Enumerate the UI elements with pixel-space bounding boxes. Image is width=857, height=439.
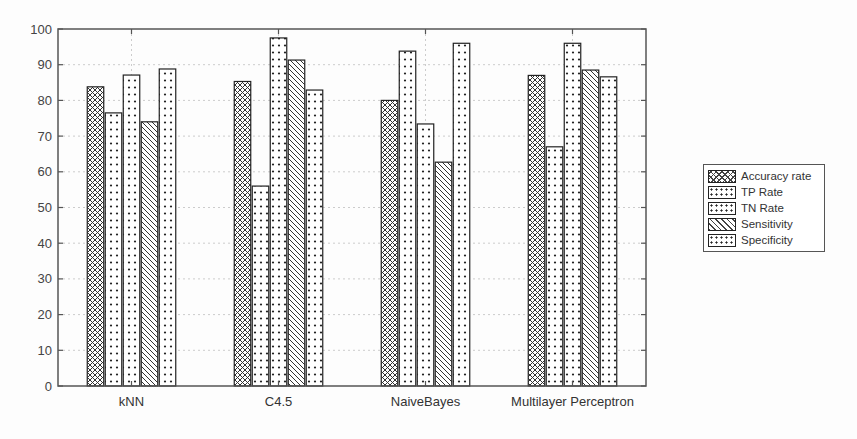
x-category-label: C4.5 xyxy=(265,394,292,409)
bar-tp-rate-multilayer-perceptron xyxy=(546,147,563,386)
dots-swatch-icon xyxy=(708,186,736,199)
y-tick-label: 50 xyxy=(38,200,52,215)
legend-item-accuracy-rate: Accuracy rate xyxy=(708,168,820,184)
bar-sensitivity-multilayer-perceptron xyxy=(582,70,599,386)
dots-swatch-icon xyxy=(708,202,736,215)
y-tick-label: 30 xyxy=(38,271,52,286)
crosshatch-swatch-icon xyxy=(708,170,736,183)
legend-label: TN Rate xyxy=(741,202,784,214)
y-tick-label: 80 xyxy=(38,93,52,108)
y-tick-label: 0 xyxy=(45,379,52,394)
x-category-label: Multilayer Perceptron xyxy=(511,394,634,409)
bar-sensitivity-c4-5 xyxy=(288,60,305,386)
bar-specificity-naivebayes xyxy=(453,43,470,386)
y-tick-label: 90 xyxy=(38,57,52,72)
bar-tn-rate-multilayer-perceptron xyxy=(564,43,581,386)
legend-label: Sensitivity xyxy=(741,218,793,230)
bar-specificity-knn xyxy=(159,69,176,386)
bar-sensitivity-naivebayes xyxy=(435,162,452,386)
legend-item-tn-rate: TN Rate xyxy=(708,200,820,216)
bar-specificity-c4-5 xyxy=(306,90,323,386)
bar-sensitivity-knn xyxy=(141,122,158,386)
bar-specificity-multilayer-perceptron xyxy=(600,77,617,386)
bar-tn-rate-knn xyxy=(123,75,140,386)
bar-accuracy-rate-multilayer-perceptron xyxy=(528,75,545,386)
bar-tn-rate-c4-5 xyxy=(270,38,287,386)
y-tick-label: 20 xyxy=(38,307,52,322)
y-tick-label: 100 xyxy=(30,22,52,37)
legend-item-sensitivity: Sensitivity xyxy=(708,216,820,232)
legend-item-specificity: Specificity xyxy=(708,232,820,248)
bar-tn-rate-naivebayes xyxy=(417,124,434,386)
x-category-label: kNN xyxy=(119,394,144,409)
y-tick-label: 10 xyxy=(38,343,52,358)
bar-accuracy-rate-naivebayes xyxy=(381,100,398,386)
bars-group xyxy=(87,38,617,386)
bar-accuracy-rate-c4-5 xyxy=(234,81,251,386)
bar-accuracy-rate-knn xyxy=(87,87,104,386)
bar-tp-rate-naivebayes xyxy=(399,51,416,386)
chart-legend: Accuracy rate TP Rate TN Rate Sensitivit… xyxy=(703,164,825,252)
dots-swatch-icon xyxy=(708,234,736,247)
legend-item-tp-rate: TP Rate xyxy=(708,184,820,200)
legend-label: TP Rate xyxy=(741,186,783,198)
bar-tp-rate-knn xyxy=(105,113,122,386)
legend-label: Accuracy rate xyxy=(741,170,811,182)
diagonal-swatch-icon xyxy=(708,218,736,231)
x-category-label: NaiveBayes xyxy=(391,394,461,409)
y-tick-label: 40 xyxy=(38,236,52,251)
y-tick-label: 60 xyxy=(38,164,52,179)
y-tick-label: 70 xyxy=(38,129,52,144)
legend-label: Specificity xyxy=(741,234,793,246)
bar-tp-rate-c4-5 xyxy=(252,186,269,386)
